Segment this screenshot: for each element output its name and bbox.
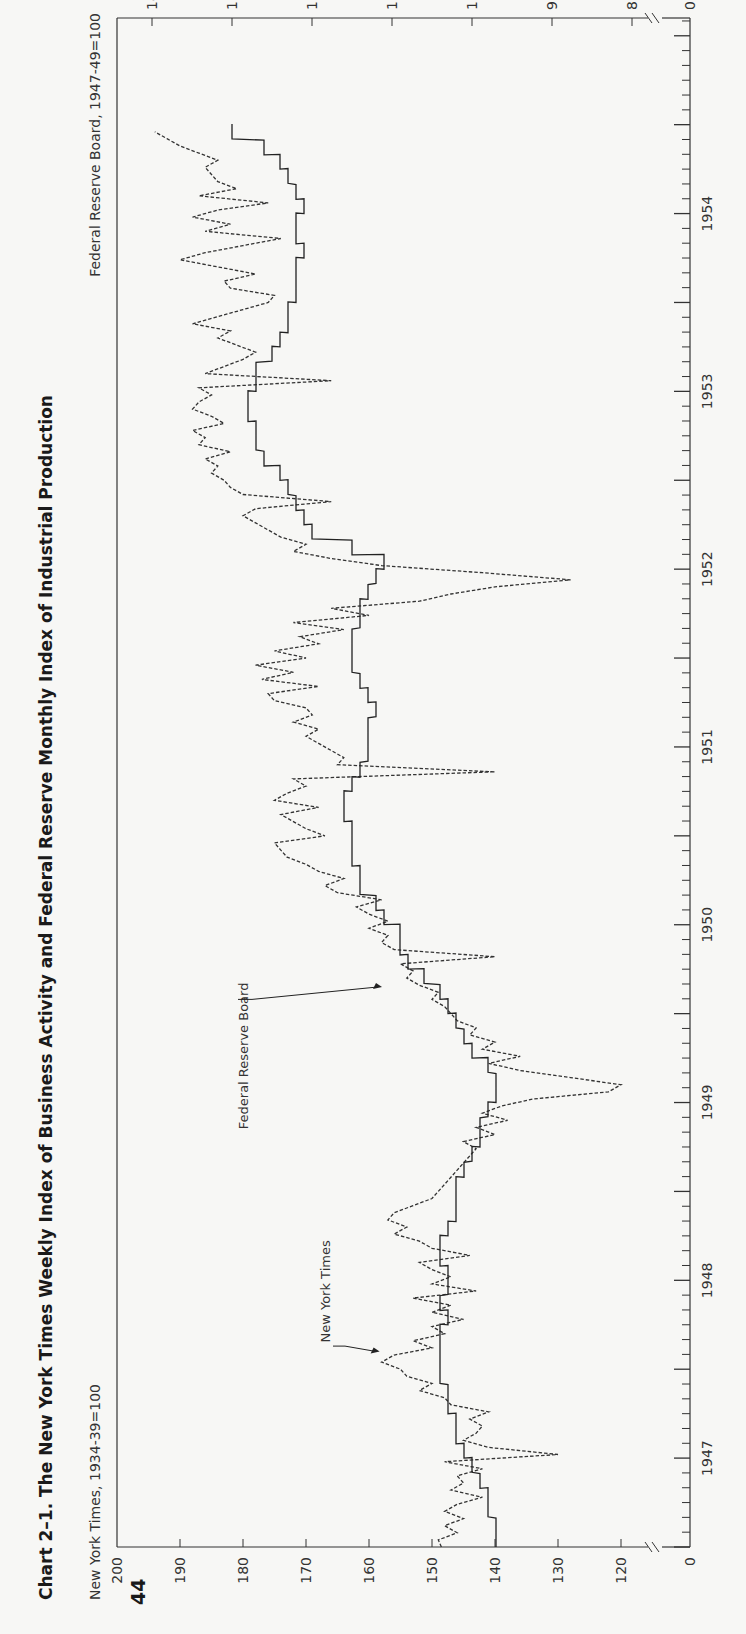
left-axis-tick-label: 170 (298, 1557, 314, 1584)
right-axis-ticks: 08090100110120130140 (144, 0, 698, 26)
right-axis-tick-label: 130 (224, 0, 240, 10)
right-axis-label: Federal Reserve Board, 1947-49=100 (87, 13, 103, 277)
year-label: 1953 (699, 374, 715, 410)
year-label: 1949 (699, 1085, 715, 1121)
year-label: 1951 (699, 729, 715, 765)
right-axis-tick-label: 140 (144, 0, 160, 10)
right-axis-tick-label: 100 (464, 0, 480, 10)
annotation-new-york-times: New York Times (318, 1240, 333, 1342)
right-axis-tick-label: 120 (304, 0, 320, 10)
left-axis-ticks: 0120130140150160170180190200 (109, 1539, 698, 1584)
right-axis-tick-label: 90 (544, 0, 560, 10)
left-axis-tick-label: 180 (235, 1557, 251, 1584)
year-label: 1948 (699, 1262, 715, 1298)
year-label: 1952 (699, 551, 715, 587)
time-axis-ticks: 19471948194919501951195219531954 (674, 21, 715, 1547)
left-axis-tick-label: 200 (109, 1557, 125, 1584)
left-axis-tick-label: 140 (487, 1557, 503, 1584)
year-label: 1950 (699, 907, 715, 943)
left-axis-tick-label: 160 (361, 1557, 377, 1584)
series-federal-reserve-board (232, 124, 496, 1547)
plot-frame (117, 13, 690, 1552)
right-axis-tick-label: 80 (624, 0, 640, 10)
series-new-york-times (155, 132, 621, 1547)
chart-title: Chart 2–1. The New York Times Weekly Ind… (36, 395, 56, 1600)
left-axis-tick-label: 120 (613, 1557, 629, 1584)
right-axis-tick-label: 0 (682, 1, 698, 10)
annotation-federal-reserve-board: Federal Reserve Board (236, 983, 251, 1130)
left-axis-tick-label: 190 (172, 1557, 188, 1584)
page-number: 44 (127, 1579, 149, 1605)
left-axis-label: New York Times, 1934-39=100 (87, 1384, 103, 1600)
left-axis-tick-label: 130 (550, 1557, 566, 1584)
left-axis-tick-label: 150 (424, 1557, 440, 1584)
year-label: 1954 (699, 196, 715, 232)
series-annotations: New York TimesFederal Reserve Board (236, 983, 382, 1354)
left-axis-tick-label: 0 (682, 1557, 698, 1566)
chart-figure: Chart 2–1. The New York Times Weekly Ind… (0, 0, 746, 1634)
right-axis-tick-label: 110 (384, 0, 400, 10)
year-label: 1947 (699, 1440, 715, 1476)
